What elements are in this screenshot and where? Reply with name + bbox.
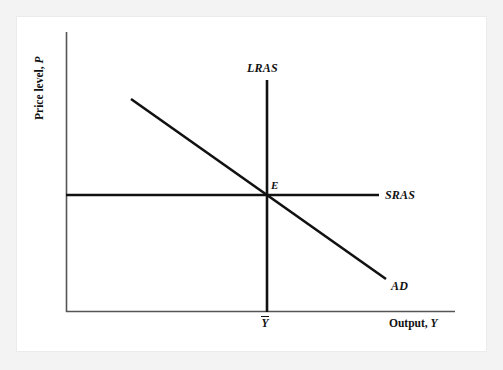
ad-as-diagram [0, 0, 503, 370]
ad-curve [131, 99, 386, 279]
y-axis-title-variable: P [33, 56, 45, 63]
figure-page: Price level, P Output, Y LRAS SRAS AD E … [0, 0, 503, 370]
lras-curve-label: LRAS [247, 62, 278, 74]
equilibrium-point-label: E [271, 180, 278, 191]
potential-output-tick-label: Y [261, 316, 269, 330]
sras-curve-label: SRAS [385, 189, 415, 201]
ad-curve-label: AD [391, 280, 408, 292]
y-axis-title-text: Price level, [33, 63, 45, 120]
y-axis-title: Price level, P [34, 56, 46, 120]
x-axis-title: Output, Y [389, 318, 438, 330]
potential-output-variable: Y [261, 318, 269, 330]
x-axis-title-text: Output, [389, 317, 431, 329]
x-axis-title-variable: Y [431, 317, 438, 329]
